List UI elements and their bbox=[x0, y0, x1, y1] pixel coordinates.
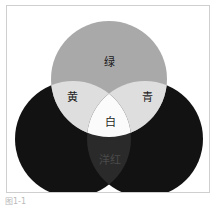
figure-caption: 图1-1 bbox=[5, 197, 205, 207]
venn-svg bbox=[7, 6, 209, 192]
venn-diagram: 绿 黄 青 白 洋红 bbox=[7, 6, 209, 192]
figure-root: 绿 黄 青 白 洋红 图1-1 bbox=[0, 0, 218, 212]
diagram-frame: 绿 黄 青 白 洋红 bbox=[6, 5, 210, 193]
